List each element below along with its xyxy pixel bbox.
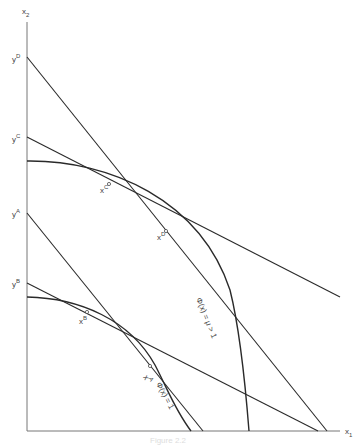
curve-label-inner: Φ(x) = 1 [154, 381, 176, 412]
point-xA [148, 364, 151, 367]
point-label-xA: xA [141, 373, 155, 385]
intercept-label-yD: yD [12, 53, 21, 64]
intercept-label-yC: yC [12, 133, 21, 144]
curve-inner [27, 297, 191, 431]
point-xB [85, 310, 88, 313]
y-axis-label: x2 [22, 7, 30, 18]
intercept-label-yB: yB [12, 278, 20, 289]
intercept-label-yA: yA [12, 208, 20, 219]
line-D [27, 57, 327, 431]
point-label-xC: xC [100, 184, 109, 195]
line-B [27, 283, 318, 431]
x-axis-label: x1 [345, 427, 353, 438]
curve-label-outer: Φ(x) = μ > 1 [194, 296, 219, 340]
curve-outer [27, 161, 249, 431]
point-label-xB: xB [79, 315, 87, 326]
production-possibility-diagram: x2 x1 yD yC yA yB xC xD xB xA Φ(x) = μ >… [0, 0, 362, 447]
diagram-canvas: x2 x1 yD yC yA yB xC xD xB xA Φ(x) = μ >… [0, 0, 362, 447]
point-label-xD: xD [157, 231, 166, 242]
figure-caption: Figure 2.2 [150, 436, 186, 445]
